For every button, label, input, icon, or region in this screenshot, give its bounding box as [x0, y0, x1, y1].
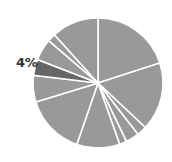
pie-chart — [0, 0, 172, 162]
pie-slices — [33, 18, 163, 148]
highlighted-slice-label: 4% — [16, 55, 37, 70]
